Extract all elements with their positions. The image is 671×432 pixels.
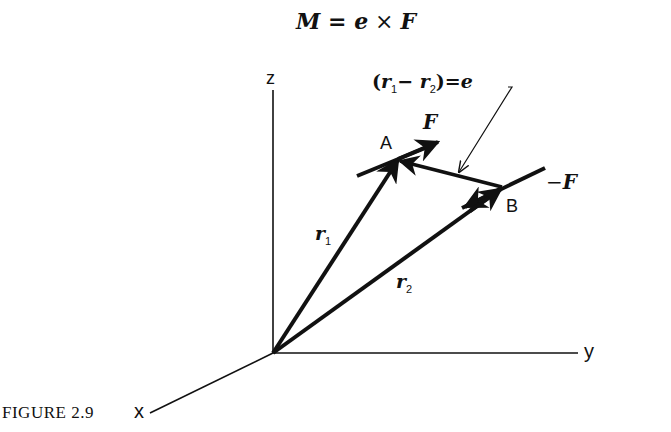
r2-vec-subscript: 2	[406, 283, 412, 295]
minus-sign: −	[397, 70, 420, 92]
neg-sign: −	[546, 170, 563, 194]
r2-label: r2	[396, 270, 412, 292]
vector-e	[400, 161, 502, 187]
vector-r1	[273, 160, 398, 353]
paren-close: )	[436, 70, 445, 92]
eq-f: F	[401, 8, 417, 34]
point-b-label: B	[506, 196, 518, 217]
eq-m: M	[296, 8, 320, 34]
paren-open: (	[372, 70, 381, 92]
r1-vec-subscript: 1	[325, 235, 331, 247]
x-axis	[150, 353, 273, 413]
r2-symbol: r	[420, 70, 430, 92]
e-definition-label: (r1− r2)=e	[372, 70, 473, 92]
e-symbol: e	[461, 70, 473, 92]
r1-label: r1	[315, 222, 331, 244]
equals-sign: =	[445, 70, 461, 92]
r1-subscript: 1	[391, 83, 397, 95]
y-axis-label: y	[584, 340, 594, 363]
r1-vec-symbol: r	[315, 222, 325, 244]
moment-diagram	[0, 0, 671, 432]
point-a-label: A	[380, 133, 392, 154]
force-f-arrow	[398, 142, 438, 159]
r2-vec-symbol: r	[396, 270, 406, 292]
force-neg-f-label: −F	[546, 170, 577, 194]
r2-subscript: 2	[430, 83, 436, 95]
equation-title: M = e × F	[296, 8, 416, 34]
force-f-label: F	[423, 110, 437, 134]
neg-f-symbol: F	[563, 170, 577, 194]
r1-symbol: r	[381, 70, 391, 92]
x-axis-label: x	[134, 400, 144, 423]
figure-caption: FIGURE 2.9	[2, 403, 94, 423]
eq-e: e	[354, 8, 368, 34]
z-axis-label: z	[266, 68, 275, 89]
vector-r2	[273, 188, 502, 353]
eq-times: ×	[368, 9, 400, 34]
eq-equals: =	[320, 8, 354, 34]
annotation-leader	[459, 87, 512, 172]
